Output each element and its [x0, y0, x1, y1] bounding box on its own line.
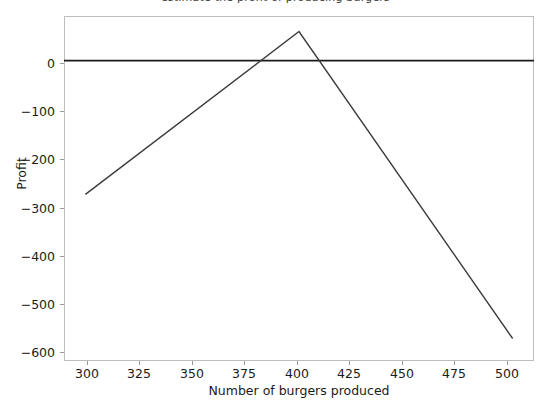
- ytick-mark: [60, 304, 64, 305]
- y-axis-label: Profit: [14, 109, 29, 239]
- xtick-mark: [402, 361, 403, 365]
- xtick-mark: [87, 361, 88, 365]
- plot-data-area: [64, 16, 534, 361]
- xtick-label: 425: [319, 366, 379, 381]
- xtick-label: 300: [57, 366, 117, 381]
- xtick-label: 450: [372, 366, 432, 381]
- profit-line-series: [85, 32, 512, 339]
- xtick-label: 400: [267, 366, 327, 381]
- ytick-label: −600: [0, 345, 55, 360]
- xtick-mark: [507, 361, 508, 365]
- series-svg: [64, 16, 534, 361]
- xtick-mark: [349, 361, 350, 365]
- clipped-caption-text: estimate the profit of producing burgers: [0, 0, 551, 5]
- xtick-label: 500: [477, 366, 537, 381]
- xtick-mark: [244, 361, 245, 365]
- xtick-label: 325: [109, 366, 169, 381]
- ytick-mark: [60, 208, 64, 209]
- ytick-mark: [60, 63, 64, 64]
- ytick-mark: [60, 159, 64, 160]
- xtick-label: 375: [214, 366, 274, 381]
- ytick-label: 0: [0, 56, 55, 71]
- ytick-mark: [60, 111, 64, 112]
- xtick-mark: [297, 361, 298, 365]
- xtick-label: 350: [162, 366, 222, 381]
- xtick-mark: [139, 361, 140, 365]
- xtick-mark: [192, 361, 193, 365]
- x-axis-label: Number of burgers produced: [64, 383, 534, 398]
- ytick-label: −500: [0, 297, 55, 312]
- ytick-mark: [60, 256, 64, 257]
- ytick-mark: [60, 352, 64, 353]
- xtick-label: 475: [424, 366, 484, 381]
- figure-canvas: estimate the profit of producing burgers…: [0, 0, 551, 416]
- xtick-mark: [454, 361, 455, 365]
- ytick-label: −400: [0, 249, 55, 264]
